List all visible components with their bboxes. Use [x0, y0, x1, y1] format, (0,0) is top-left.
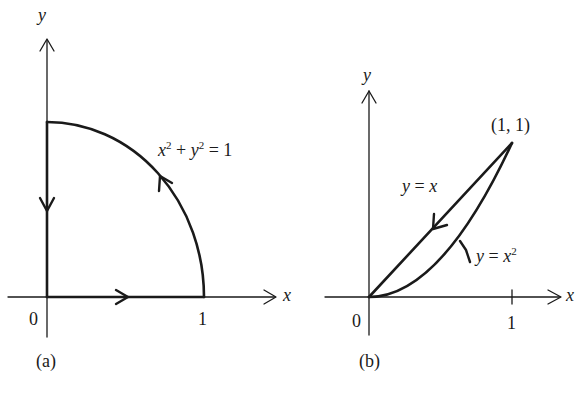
panel-b-x-axis-label: x — [566, 286, 574, 304]
panel-a-tick-1-label: 1 — [198, 310, 207, 328]
panel-a-y-axis-label: y — [38, 6, 46, 24]
curve-label-x: x — [158, 140, 166, 160]
panel-b-point-label: (1, 1) — [491, 116, 530, 134]
curve-label-y: y — [191, 140, 199, 160]
line-label-y: y — [402, 176, 410, 196]
parabola-label-exp: 2 — [511, 245, 517, 257]
panel-a-x-axis-label: x — [283, 286, 291, 304]
panel-b-tick-1-label: 1 — [507, 314, 516, 332]
parabola-label-x: x — [503, 246, 511, 266]
parabola-label-eq: = — [484, 246, 503, 266]
panel-b-line-label: y = x — [402, 177, 437, 195]
panel-a-caption: (a) — [36, 352, 56, 370]
curve-label-rhs: = 1 — [204, 140, 232, 160]
panel-b-line-y-equals-x — [369, 143, 512, 297]
panel-a-curve-label: x2 + y2 = 1 — [158, 140, 232, 159]
diagram-canvas — [0, 0, 588, 395]
panel-b-origin-label: 0 — [352, 312, 361, 330]
line-label-eq: = — [410, 176, 429, 196]
panel-b-arrow-parabola-icon — [460, 241, 470, 262]
panel-b-caption: (b) — [359, 352, 380, 370]
panel-b-parabola-label: y = x2 — [476, 246, 517, 265]
parabola-label-y: y — [476, 246, 484, 266]
line-label-x: x — [429, 176, 437, 196]
panel-a-graphics — [8, 39, 276, 337]
curve-label-plus: + — [172, 140, 191, 160]
panel-b-y-axis-label: y — [363, 66, 371, 84]
panel-a-origin-label: 0 — [29, 310, 38, 328]
